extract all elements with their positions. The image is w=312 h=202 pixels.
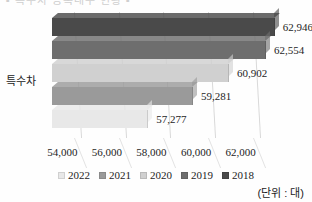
- bar-2020[interactable]: [52, 64, 228, 82]
- bar-front-face: [52, 18, 275, 36]
- legend-label: 2022: [68, 170, 90, 181]
- data-label-2019: 62,554: [274, 45, 304, 56]
- chart-legend: 20222021202020192018: [0, 168, 312, 182]
- bar-2021[interactable]: [52, 87, 192, 105]
- x-tick-56000: 56,000: [92, 146, 122, 158]
- legend-label: 2018: [232, 170, 254, 181]
- data-label-2021: 59,281: [201, 91, 231, 102]
- bar-front-face: [52, 41, 266, 59]
- legend-label: 2019: [191, 170, 213, 181]
- data-label-2022: 57,277: [156, 114, 186, 125]
- bar-2018[interactable]: [52, 18, 274, 36]
- legend-swatch-icon: [140, 172, 147, 179]
- unit-note: (단위 : 대): [258, 184, 305, 200]
- y-axis-category-label: 특수차: [6, 72, 36, 88]
- bar-front-face: [52, 110, 148, 128]
- x-axis-tick-labels: 54,00056,00058,00060,00062,000: [0, 146, 312, 162]
- legend-swatch-icon: [181, 172, 188, 179]
- x-tick-58000: 58,000: [136, 146, 166, 158]
- cropped-title-text: ▪ 특수차 등록대수 현황 ▪: [6, 0, 131, 7]
- bar-2022[interactable]: [52, 110, 147, 128]
- legend-swatch-icon: [99, 172, 106, 179]
- bar-front-face: [52, 64, 229, 82]
- data-label-2018: 62,946: [283, 22, 312, 33]
- plot-area: 62,94662,55460,90259,28157,277: [52, 12, 286, 138]
- cropped-title-sliver: ▪ 특수차 등록대수 현황 ▪: [0, 0, 312, 7]
- legend-item-2021[interactable]: 2021: [99, 170, 131, 181]
- x-tick-54000: 54,000: [47, 146, 77, 158]
- legend-item-2020[interactable]: 2020: [140, 170, 172, 181]
- special-vehicle-registration-chart: ▪ 특수차 등록대수 현황 ▪ 62,94662,55460,90259,281…: [0, 0, 312, 202]
- legend-swatch-icon: [58, 172, 65, 179]
- bar-front-face: [52, 87, 193, 105]
- legend-swatch-icon: [222, 172, 229, 179]
- x-tick-60000: 60,000: [181, 146, 211, 158]
- legend-item-2019[interactable]: 2019: [181, 170, 213, 181]
- legend-label: 2021: [109, 170, 131, 181]
- legend-label: 2020: [150, 170, 172, 181]
- legend-item-2018[interactable]: 2018: [222, 170, 254, 181]
- data-label-2020: 60,902: [237, 68, 267, 79]
- x-tick-62000: 62,000: [225, 146, 255, 158]
- legend-item-2022[interactable]: 2022: [58, 170, 90, 181]
